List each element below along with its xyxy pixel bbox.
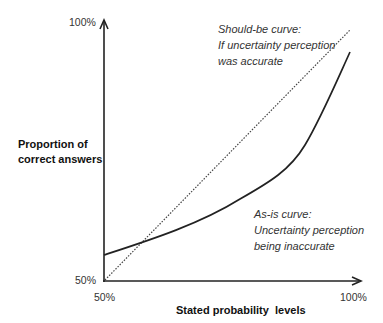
should-be-annotation-line1: Should-be curve:: [218, 21, 335, 37]
x-tick-50: 50%: [94, 291, 115, 303]
y-axis-title-line1: Proportion of: [18, 137, 102, 152]
as-is-annotation-line1: As-is curve:: [254, 206, 364, 222]
x-axis-title: Stated probability levels: [176, 303, 306, 318]
as-is-annotation: As-is curve: Uncertainty perception bein…: [254, 206, 364, 254]
as-is-annotation-line2: Uncertainty perception: [254, 222, 364, 238]
as-is-annotation-line3: being inaccurate: [254, 238, 364, 254]
should-be-annotation-line2: If uncertainty perception: [218, 37, 335, 53]
y-axis-title-line2: correct answers: [18, 152, 102, 167]
should-be-annotation-line3: was accurate: [218, 53, 335, 69]
x-tick-100: 100%: [340, 291, 367, 303]
should-be-annotation: Should-be curve: If uncertainty percepti…: [218, 21, 335, 69]
y-tick-50: 50%: [75, 274, 96, 286]
y-tick-100: 100%: [69, 16, 96, 28]
y-axis-title: Proportion of correct answers: [18, 137, 102, 167]
